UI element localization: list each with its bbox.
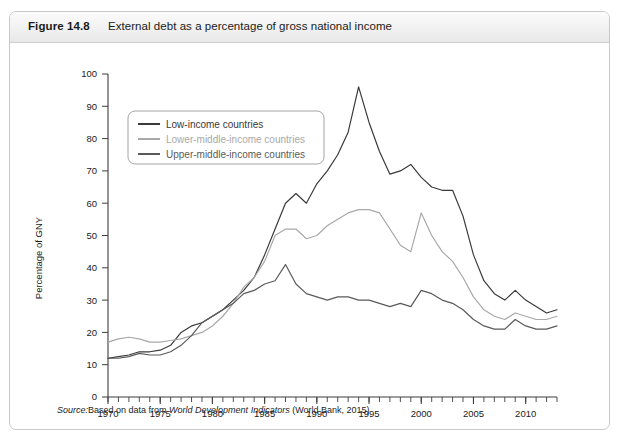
- legend-label-1: Low-income countries: [166, 119, 263, 130]
- y-tick-label: 60: [86, 198, 97, 209]
- y-tick-label: 30: [86, 295, 97, 306]
- source-italic-title: World Development Indicators: [169, 405, 290, 415]
- legend-label-3: Upper-middle-income countries: [166, 149, 305, 160]
- y-axis-title: Percentage of GNY: [33, 216, 44, 299]
- figure-title: External debt as a percentage of gross n…: [108, 20, 392, 32]
- y-tick-label: 80: [86, 133, 97, 144]
- y-tick-label: 10: [86, 359, 97, 370]
- legend-label-2: Lower-middle-income countries: [166, 134, 305, 145]
- series-line-2: [108, 210, 557, 342]
- figure-card: Figure 14.8 External debt as a percentag…: [9, 11, 610, 430]
- source-note: Source:Based on data from World Developm…: [57, 405, 370, 415]
- source-label: Source:: [57, 405, 88, 415]
- x-tick-label: 2010: [515, 408, 536, 419]
- x-tick-label: 2000: [411, 408, 432, 419]
- y-tick-label: 50: [86, 230, 97, 241]
- y-tick-label: 20: [86, 327, 97, 338]
- series-line-3: [108, 265, 557, 359]
- source-text-2: (World Bank, 2015): [290, 405, 370, 415]
- figure-number: Figure 14.8: [28, 20, 90, 32]
- chart-plot-area: 0102030405060708090100 19701975198019851…: [10, 43, 610, 430]
- figure-header-bar: Figure 14.8 External debt as a percentag…: [10, 12, 609, 43]
- x-tick-label: 2005: [463, 408, 484, 419]
- y-axis-ticks: 0102030405060708090100: [81, 68, 108, 402]
- y-tick-label: 90: [86, 101, 97, 112]
- y-tick-label: 0: [92, 391, 97, 402]
- y-tick-label: 70: [86, 165, 97, 176]
- source-text-1: Based on data from: [88, 405, 169, 415]
- chart-legend: Low-income countriesLower-middle-income …: [128, 111, 324, 164]
- y-tick-label: 40: [86, 262, 97, 273]
- line-chart: 0102030405060708090100 19701975198019851…: [10, 43, 610, 430]
- x-axis-minor-ticks: [108, 397, 557, 402]
- y-tick-label: 100: [81, 68, 97, 79]
